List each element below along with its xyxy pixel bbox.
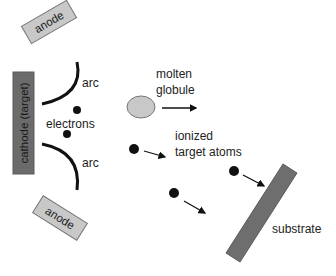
substrate-label: substrate bbox=[272, 222, 322, 236]
molten-globule bbox=[127, 96, 155, 118]
electron-dot bbox=[63, 130, 71, 138]
anode-top: anode bbox=[21, 0, 76, 43]
arc-top bbox=[42, 62, 78, 104]
ion-arrow bbox=[144, 151, 165, 157]
substrate bbox=[226, 164, 297, 262]
electron-dot bbox=[73, 106, 81, 114]
cathodic-arc-diagram: anode cathode (target) arc electrons arc… bbox=[0, 0, 336, 276]
arc-bottom bbox=[42, 144, 78, 190]
cathode-target: cathode (target) bbox=[13, 72, 34, 174]
ion-dot bbox=[129, 144, 139, 154]
cathode-label: cathode (target) bbox=[18, 82, 30, 163]
electrons-label: electrons bbox=[46, 117, 95, 131]
ion-dot bbox=[169, 188, 179, 198]
molten-label-line2: globule bbox=[156, 83, 195, 97]
ion-arrow bbox=[184, 201, 205, 213]
ion-arrow bbox=[243, 175, 264, 186]
ionized-label-line1: ionized bbox=[175, 129, 213, 143]
anode-bottom: anode bbox=[33, 196, 88, 241]
arc-bottom-label: arc bbox=[82, 156, 99, 170]
molten-label-line1: molten bbox=[156, 67, 192, 81]
ion-dot bbox=[229, 166, 239, 176]
arc-top-label: arc bbox=[82, 76, 99, 90]
ionized-label-line2: target atoms bbox=[175, 145, 242, 159]
